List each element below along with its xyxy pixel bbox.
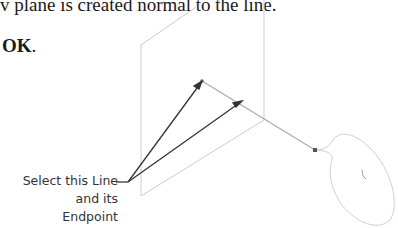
callout-line1: Select this Line — [18, 172, 118, 190]
selected-line — [202, 81, 315, 150]
circle-sketch — [317, 134, 394, 225]
callout-label: Select this Line and its Endpoint — [18, 172, 118, 226]
center-mark — [362, 170, 366, 179]
line-endpoint — [313, 148, 317, 152]
plane-outline — [141, 0, 264, 196]
callout-line2: and its Endpoint — [18, 190, 118, 226]
callout-arrows — [116, 81, 242, 182]
